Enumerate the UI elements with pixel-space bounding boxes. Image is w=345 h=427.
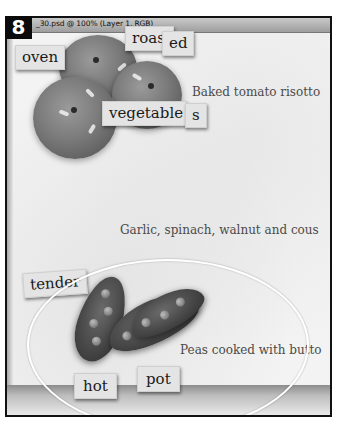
caption-baked-tomato: Baked tomato risotto — [192, 85, 320, 99]
word-tile-vegetable[interactable]: vegetable — [102, 101, 187, 126]
word-tile-ed[interactable]: ed — [162, 31, 194, 56]
word-tile-tender[interactable]: tender — [22, 269, 88, 298]
document-canvas[interactable]: roast ed oven vegetable s Baked tomato r… — [7, 33, 330, 415]
caption-peas-cooked: Peas cooked with butto — [180, 343, 322, 357]
word-tile-pot[interactable]: pot — [137, 366, 180, 392]
word-tile-oven[interactable]: oven — [15, 45, 65, 70]
canvas-left-shadow — [7, 33, 13, 385]
step-number-badge: 8 — [5, 16, 32, 39]
word-tile-s[interactable]: s — [185, 103, 207, 128]
word-tile-hot[interactable]: hot — [74, 373, 117, 399]
caption-garlic-spinach: Garlic, spinach, walnut and cous — [120, 223, 319, 237]
document-window: _30.psd @ 100% (Layer 1, RGB) roast ed o… — [5, 16, 332, 417]
